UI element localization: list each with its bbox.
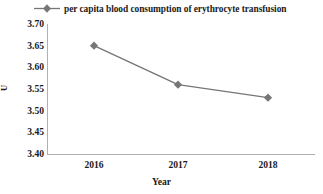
series-line [94,46,268,98]
y-tick-label: 3.70 [14,19,44,29]
series-plot [47,24,315,154]
y-tick-label: 3.65 [14,41,44,51]
y-tick-label: 3.45 [14,128,44,138]
data-point-marker [174,81,182,89]
x-tick-label: 2016 [64,160,124,170]
y-axis-title: U [0,85,9,91]
y-tick-label: 3.50 [14,106,44,116]
series-markers [90,42,272,102]
y-tick-label: 3.40 [14,149,44,159]
x-axis-title: Year [0,176,323,187]
plot-area [47,24,315,154]
chart-legend: per capita blood consumption of erythroc… [34,1,286,16]
x-tick-label: 2018 [238,160,298,170]
y-tick-label: 3.60 [14,63,44,73]
legend-label: per capita blood consumption of erythroc… [64,4,286,14]
legend-diamond-marker-icon [34,3,60,14]
y-axis-tick-labels: 3.70 3.65 3.60 3.55 3.50 3.45 3.40 [14,24,44,154]
x-axis-tick-labels: 2016 2017 2018 [47,160,315,174]
line-chart: per capita blood consumption of erythroc… [0,0,323,194]
data-point-marker [264,94,272,102]
x-tick-label: 2017 [148,160,208,170]
y-tick-label: 3.55 [14,84,44,94]
x-axis-line [47,154,315,155]
data-point-marker [90,42,98,50]
